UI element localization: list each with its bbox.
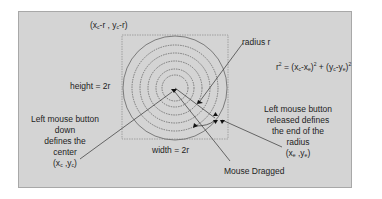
bounding-square	[122, 35, 228, 139]
center-coords: (xc ,yc)	[22, 158, 108, 171]
end-down-arrow-icon	[213, 120, 218, 124]
radius-formula: r2 = (xc-xe)2 + (yc-ye)2	[276, 59, 351, 75]
end-up-arrow-icon	[213, 112, 218, 116]
end-point-arrow-icon	[220, 120, 225, 124]
width-label: width = 2r	[152, 145, 189, 156]
drag-arrow-icon	[193, 123, 198, 128]
height-label: height = 2r	[70, 81, 110, 92]
radius-line	[175, 88, 215, 118]
mouse-dragged-label: Mouse Dragged	[224, 166, 284, 177]
end-coords: (xe ,ye)	[253, 148, 343, 161]
end-annotation: Left mouse button released defines the e…	[253, 104, 343, 161]
radius-label: radius r	[242, 37, 270, 48]
corner-label: (xc-r , yc-r)	[90, 20, 128, 33]
center-annotation: Left mouse button down defines the cente…	[22, 114, 108, 171]
